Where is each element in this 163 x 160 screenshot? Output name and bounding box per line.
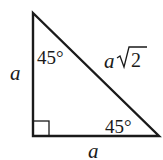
bottom-right-angle-label: 45° [105,116,132,137]
svg-text:a: a [104,49,115,73]
triangle-diagram: a a 45° 45° a 2 [0,0,163,160]
svg-text:2: 2 [131,49,141,71]
horizontal-leg-label: a [88,139,99,160]
triangle [33,13,159,136]
vertical-leg-label: a [10,61,21,85]
hypotenuse-label: a 2 [104,47,147,73]
right-angle-marker [33,121,49,136]
top-angle-label: 45° [37,47,64,68]
